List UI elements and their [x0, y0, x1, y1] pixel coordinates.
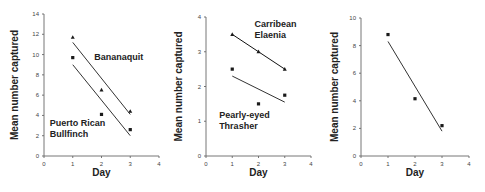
- y-tick-label: 0: [198, 153, 202, 159]
- series-label: Carribean: [255, 19, 297, 29]
- square-marker: [440, 124, 443, 127]
- x-axis-title: Day: [406, 167, 425, 178]
- y-tick-label: 12: [32, 31, 39, 37]
- y-tick-label: 10: [32, 52, 39, 58]
- triangle-marker: [128, 109, 132, 113]
- trend-line: [232, 76, 285, 102]
- series-data: [386, 33, 443, 131]
- y-tick-label: 2: [36, 133, 40, 139]
- x-tick-label: 1: [231, 161, 235, 167]
- figure: 0246810121401234DayMean number capturedB…: [0, 0, 485, 192]
- y-tick-label: 4: [198, 14, 202, 20]
- series-carribean-elaenia: CarribeanElaenia: [230, 19, 296, 71]
- series-label: Thrasher: [219, 121, 258, 131]
- chart-panel-1: 0246810121401234DayMean number capturedB…: [9, 11, 161, 178]
- y-tick-label: 1: [198, 118, 202, 124]
- x-axis-title: Day: [249, 167, 268, 178]
- x-tick-label: 1: [71, 161, 75, 167]
- x-tick-label: 3: [440, 161, 444, 167]
- y-tick-label: 2: [198, 84, 202, 90]
- x-tick-label: 3: [283, 161, 287, 167]
- square-marker: [100, 113, 103, 116]
- y-tick-label: 3: [198, 49, 202, 55]
- y-axis-title: Mean number captured: [173, 31, 184, 141]
- y-tick-label: 4: [36, 112, 40, 118]
- triangle-marker: [230, 32, 234, 36]
- y-tick-label: 0: [36, 153, 40, 159]
- x-tick-label: 0: [359, 161, 363, 167]
- series-label: Elaenia: [255, 30, 288, 40]
- x-tick-label: 4: [309, 161, 313, 167]
- scatter-charts: 0246810121401234DayMean number capturedB…: [0, 0, 485, 192]
- y-axis-title: Mean number captured: [9, 30, 20, 140]
- series-label: Pearly-eyed: [219, 110, 270, 120]
- chart-panel-2: 0123401234DayMean number capturedCarribe…: [173, 14, 313, 178]
- series-puerto-rican-bullfinch: Puerto RicanBullfinch: [50, 56, 132, 139]
- square-marker: [257, 102, 260, 105]
- triangle-marker: [71, 35, 75, 39]
- x-axis-title: Day: [92, 167, 111, 178]
- y-tick-label: 6: [353, 70, 357, 76]
- square-marker: [413, 97, 416, 100]
- square-marker: [386, 33, 389, 36]
- series-label: Bullfinch: [50, 129, 89, 139]
- y-tick-label: 2: [353, 125, 357, 131]
- y-tick-label: 6: [36, 92, 40, 98]
- x-tick-label: 3: [129, 161, 133, 167]
- square-marker: [71, 56, 74, 59]
- series-label: Puerto Rican: [50, 118, 106, 128]
- triangle-marker: [100, 88, 104, 92]
- y-tick-label: 10: [349, 15, 356, 21]
- x-tick-label: 4: [467, 161, 471, 167]
- chart-panel-3: 024681001234DayMean number captured: [329, 15, 471, 178]
- square-marker: [231, 68, 234, 71]
- y-tick-label: 14: [32, 11, 39, 17]
- series-bananaquit: Bananaquit: [71, 35, 144, 114]
- series-label: Bananaquit: [94, 52, 143, 62]
- square-marker: [283, 94, 286, 97]
- trend-line: [388, 41, 442, 131]
- x-tick-label: 1: [386, 161, 390, 167]
- y-axis-title: Mean number captured: [329, 32, 340, 142]
- x-tick-label: 0: [42, 161, 46, 167]
- square-marker: [129, 128, 132, 131]
- y-tick-label: 8: [36, 72, 40, 78]
- x-tick-label: 4: [157, 161, 161, 167]
- series-pearly-eyed-thrasher: Pearly-eyedThrasher: [219, 68, 286, 132]
- y-tick-label: 0: [353, 153, 357, 159]
- x-tick-label: 0: [204, 161, 208, 167]
- y-tick-label: 8: [353, 43, 357, 49]
- y-tick-label: 4: [353, 98, 357, 104]
